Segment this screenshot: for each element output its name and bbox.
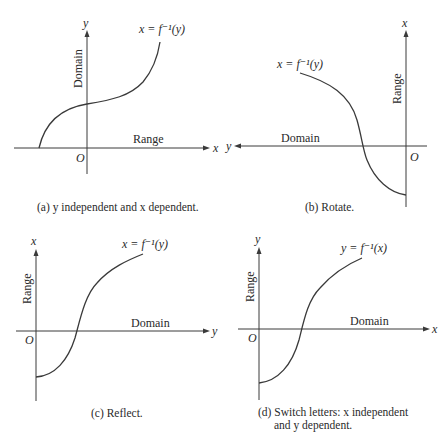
vertical-axis-name: Range xyxy=(243,271,257,302)
origin-label: O xyxy=(76,151,85,165)
curve-label: x = f⁻¹(y) xyxy=(138,22,185,36)
arrow-up-icon xyxy=(85,30,90,37)
caption-b: (b) Rotate. xyxy=(305,201,354,214)
arrow-right-icon xyxy=(203,146,210,151)
vertical-axis-name: Domain xyxy=(71,49,85,88)
origin-label: O xyxy=(410,150,419,164)
vertical-axis-letter: y xyxy=(82,16,89,30)
vertical-axis-name: Range xyxy=(390,73,404,104)
horizontal-axis-name: Domain xyxy=(131,316,170,330)
inverse-curve xyxy=(259,258,362,383)
horizontal-axis-letter: y xyxy=(225,139,232,153)
curve-label: y = f⁻¹(x) xyxy=(340,241,387,255)
inverse-function-figure: y x O Domain Range x = f⁻¹(y) (a) y inde… xyxy=(0,0,439,439)
vertical-axis-letter: x xyxy=(401,16,408,30)
vertical-axis-letter: x xyxy=(30,234,37,248)
caption-a: (a) y independent and x dependent. xyxy=(37,201,199,214)
caption-c: (c) Reflect. xyxy=(91,407,143,420)
curve-label: x = f⁻¹(y) xyxy=(121,237,168,251)
inverse-curve xyxy=(36,254,143,377)
origin-label: O xyxy=(25,333,34,347)
panel-a: y x O Domain Range x = f⁻¹(y) (a) y inde… xyxy=(14,16,219,214)
arrow-up-icon xyxy=(404,30,409,37)
arrow-right-icon xyxy=(203,329,210,334)
horizontal-axis-letter: x xyxy=(212,141,219,155)
caption-d-line2: and y dependent. xyxy=(274,419,352,432)
origin-label: O xyxy=(248,331,257,345)
caption-d-line1: (d) Switch letters: x independent xyxy=(258,406,409,419)
arrow-left-icon xyxy=(234,144,241,149)
horizontal-axis-name: Domain xyxy=(281,131,320,145)
vertical-axis-letter: y xyxy=(254,232,261,246)
horizontal-axis-letter: y xyxy=(211,324,218,338)
panel-b: x y O Range Domain x = f⁻¹(y) (b) Rotate… xyxy=(225,16,427,214)
horizontal-axis-name: Range xyxy=(133,132,164,146)
horizontal-axis-letter: x xyxy=(431,322,438,336)
arrow-right-icon xyxy=(423,327,430,332)
panel-d: y x O Range Domain y = f⁻¹(x) (d) Switch… xyxy=(238,232,438,432)
panel-c: x y O Range Domain x = f⁻¹(y) (c) Reflec… xyxy=(16,234,218,420)
arrow-up-icon xyxy=(34,249,39,256)
horizontal-axis-name: Domain xyxy=(350,314,389,328)
vertical-axis-name: Range xyxy=(20,273,34,304)
curve-label: x = f⁻¹(y) xyxy=(276,57,323,71)
arrow-up-icon xyxy=(257,247,262,254)
